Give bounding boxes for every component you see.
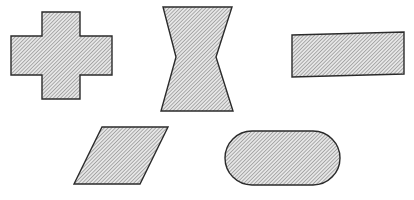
rectangle-shape[interactable] (292, 32, 404, 77)
shapes-svg (0, 0, 414, 200)
parallelogram-shape[interactable] (74, 127, 168, 184)
cross-shape[interactable] (11, 12, 112, 99)
shape-group-row-1 (11, 7, 404, 111)
figure-canvas (0, 0, 414, 200)
hourglass-shape[interactable] (161, 7, 233, 111)
dumbbell-shape[interactable] (225, 131, 340, 185)
shape-group-row-2 (74, 127, 340, 185)
